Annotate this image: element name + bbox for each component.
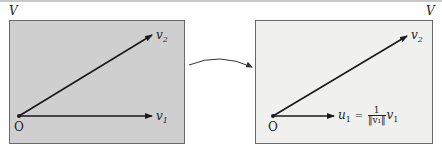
transition-arrow <box>189 59 252 67</box>
right-v2-label: v2 <box>411 28 423 44</box>
left-v2-arrow <box>19 35 152 116</box>
u1-fraction: 1‖v₁‖ <box>368 106 386 125</box>
left-v2-label: v2 <box>156 28 168 44</box>
left-vectors <box>17 35 152 118</box>
u1-formula: u1 = 1‖v₁‖v1 <box>338 106 398 125</box>
left-origin-label: O <box>14 120 24 134</box>
left-origin-dot <box>17 114 21 118</box>
left-v1-label: v1 <box>156 109 168 125</box>
vector-diagram <box>0 0 442 154</box>
right-origin-dot <box>271 114 275 118</box>
right-origin-label: O <box>268 120 278 134</box>
right-v2-arrow <box>273 36 407 116</box>
